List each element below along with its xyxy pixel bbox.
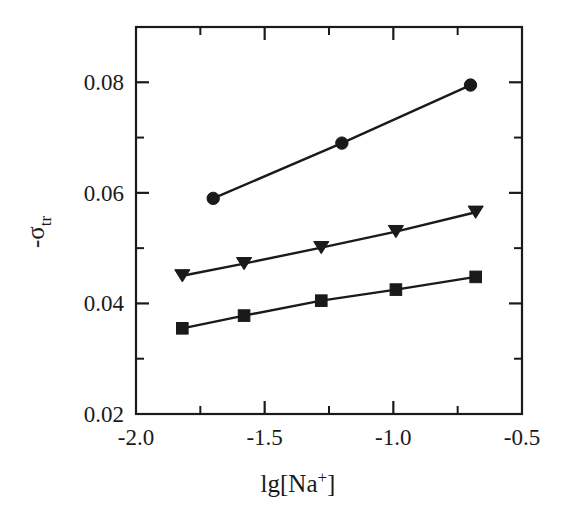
data-point-square	[315, 295, 327, 307]
x-tick-label: -1.5	[246, 425, 282, 450]
y-axis-title-symbol: σ	[22, 226, 49, 240]
x-axis-tick-labels: -2.0-1.5-1.0-0.5	[118, 425, 540, 450]
data-point-triangle-down	[468, 206, 483, 218]
y-axis-title-minus: -	[22, 240, 49, 248]
data-point-circle	[207, 192, 219, 204]
x-axis-title: lg[Na+]	[261, 468, 336, 497]
data-point-square	[177, 323, 189, 335]
data-point-square	[238, 310, 250, 322]
y-axis-major-ticks	[136, 82, 522, 303]
y-tick-label: 0.06	[84, 181, 124, 206]
x-axis-minor-ticks	[200, 27, 457, 414]
x-tick-label: -0.5	[504, 425, 540, 450]
y-tick-label: 0.08	[84, 70, 124, 95]
svg-text:lg[Na+]: lg[Na+]	[261, 468, 336, 497]
x-axis-major-ticks	[265, 27, 394, 414]
x-tick-label: -2.0	[118, 425, 154, 450]
chart-canvas: -2.0-1.5-1.0-0.5 0.020.040.060.08 lg[Na+…	[0, 0, 572, 515]
y-tick-label: 0.02	[84, 402, 124, 427]
y-axis-tick-labels: 0.020.040.060.08	[84, 70, 125, 427]
data-point-circle	[336, 137, 348, 149]
svg-text:-σtr: -σtr	[22, 216, 55, 249]
y-tick-label: 0.04	[84, 291, 125, 316]
series-square	[177, 271, 482, 334]
chart-page: -2.0-1.5-1.0-0.5 0.020.040.060.08 lg[Na+…	[0, 0, 572, 515]
data-point-square	[470, 271, 482, 283]
x-tick-label: -1.0	[375, 425, 411, 450]
x-axis-title-base: lg[Na	[261, 470, 318, 497]
x-axis-title-superscript: +	[318, 468, 328, 487]
series-circle	[207, 79, 477, 205]
data-point-square	[390, 284, 402, 296]
data-point-circle	[464, 79, 476, 91]
x-axis-title-tail: ]	[327, 470, 335, 497]
series-triangle-down	[175, 206, 484, 282]
y-axis-title: -σtr	[22, 216, 55, 249]
data-series-layer	[175, 79, 484, 334]
y-axis-title-subscript: tr	[36, 216, 55, 227]
